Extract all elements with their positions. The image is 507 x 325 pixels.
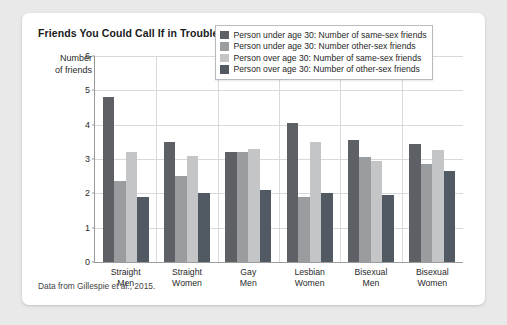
x-axis-category-label-line: Straight [111,267,141,278]
legend-item: Person under age 30: Number of same-sex … [220,29,426,41]
x-axis-category-label-line: Men [355,278,388,289]
y-axis-label-line2: of friends [32,65,92,77]
bar [198,193,210,262]
legend-swatch-icon [220,31,229,40]
x-axis-category-label-line: Lesbian [294,267,324,278]
bar [164,142,176,262]
bar-group: BisexualMen [340,56,401,262]
bar [298,197,310,262]
bar [175,176,187,262]
bar [444,171,456,262]
bar-group: BisexualWomen [402,56,463,262]
y-axis-label: Number of friends [32,53,92,76]
legend-item: Person over age 30: Number of same-sex f… [220,52,426,64]
bar [287,123,299,262]
legend-swatch-icon [220,54,229,63]
bar [248,149,260,262]
bar [225,152,237,262]
bar [432,150,444,262]
x-axis-category-label-line: Women [294,278,324,289]
y-axis-tick-label: 0 [85,257,90,267]
bar [371,161,383,262]
bar [421,164,433,262]
x-axis-category-label: StraightWomen [172,267,202,288]
bar-group: GayMen [218,56,279,262]
chart-legend: Person under age 30: Number of same-sex … [215,25,433,80]
legend-item-label: Person under age 30: Number other-sex fr… [234,41,416,51]
bar [187,156,199,262]
legend-item-label: Person over age 30: Number of same-sex f… [234,53,422,63]
x-axis-category-label-line: Bisexual [416,267,449,278]
x-axis-category-label: BisexualMen [355,267,388,288]
chart-card: Friends You Could Call If in Trouble Lat… [22,13,485,305]
bar [382,195,394,262]
bar [137,197,149,262]
x-axis-category-label: BisexualWomen [416,267,449,288]
bar-group: StraightMen [95,56,156,262]
bar [260,190,272,262]
legend-swatch-icon [220,42,229,51]
bar [114,181,126,262]
source-caption: Data from Gillespie et al., 2015. [38,281,155,291]
y-axis-tick-label: 6 [85,51,90,61]
y-axis-tick-label: 2 [85,188,90,198]
bar [126,152,138,262]
bar [321,193,333,262]
y-axis-tick-label: 5 [85,85,90,95]
y-axis-tick-label: 3 [85,154,90,164]
bar [409,144,421,262]
legend-item: Person under age 30: Number other-sex fr… [220,41,426,53]
legend-item-label: Person under age 30: Number of same-sex … [234,30,427,40]
y-axis-tick-label: 4 [85,120,90,130]
y-axis-tick-label: 1 [85,223,90,233]
bar [310,142,322,262]
x-axis-category-label-line: Women [172,278,202,289]
x-axis-category-label-line: Women [416,278,449,289]
x-axis-category-label: GayMen [240,267,257,288]
bar [103,97,115,262]
bar [359,157,371,262]
x-axis-category-label-line: Bisexual [355,267,388,278]
bar-groups: StraightMenStraightWomenGayMenLesbianWom… [95,56,463,262]
bar [348,140,360,262]
legend-swatch-icon [220,65,229,74]
x-axis-category-label-line: Gay [240,267,257,278]
x-axis-category-label-line: Men [240,278,257,289]
plot-area: 0123456 StraightMenStraightWomenGayMenLe… [94,56,463,263]
bar [237,152,249,262]
bar-group: LesbianWomen [279,56,340,262]
x-axis-category-label: LesbianWomen [294,267,324,288]
x-axis-category-label-line: Straight [172,267,202,278]
legend-item-label: Person over age 30: Number of other-sex … [234,64,420,74]
bar-group: StraightWomen [156,56,217,262]
y-axis-label-line1: Number [32,53,92,65]
legend-item: Person over age 30: Number of other-sex … [220,64,426,76]
